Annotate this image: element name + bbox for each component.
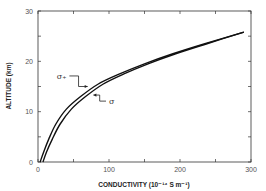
x-tick-label: 100 xyxy=(103,166,115,173)
series-line-1 xyxy=(43,32,244,162)
series-annotations: σ₊σ xyxy=(57,72,115,106)
series-lines xyxy=(40,32,244,162)
series-label-0: σ₊ xyxy=(57,72,67,81)
annotation-arrow xyxy=(69,76,87,87)
x-tick-label: 200 xyxy=(174,166,186,173)
x-tick-label: 300 xyxy=(245,166,257,173)
x-tick-label: 0 xyxy=(36,166,40,173)
plot-frame xyxy=(38,11,251,162)
y-tick-label: 0 xyxy=(29,159,33,166)
y-tick-label: 10 xyxy=(25,108,33,115)
y-axis-label: ALTITUDE (km) xyxy=(5,62,13,109)
axis-ticks: 01002003000102030 xyxy=(25,8,257,174)
arrowhead-icon xyxy=(93,93,96,96)
series-label-1: σ xyxy=(109,97,115,106)
y-tick-label: 30 xyxy=(25,8,33,15)
arrowhead-icon xyxy=(85,85,88,88)
x-axis-label: CONDUCTIVITY (10⁻¹⁴ S m⁻¹) xyxy=(98,181,189,189)
series-line-0 xyxy=(40,32,244,162)
y-tick-label: 20 xyxy=(25,58,33,65)
altitude-conductivity-chart: 01002003000102030 σ₊σ CONDUCTIVITY (10⁻¹… xyxy=(0,0,266,191)
